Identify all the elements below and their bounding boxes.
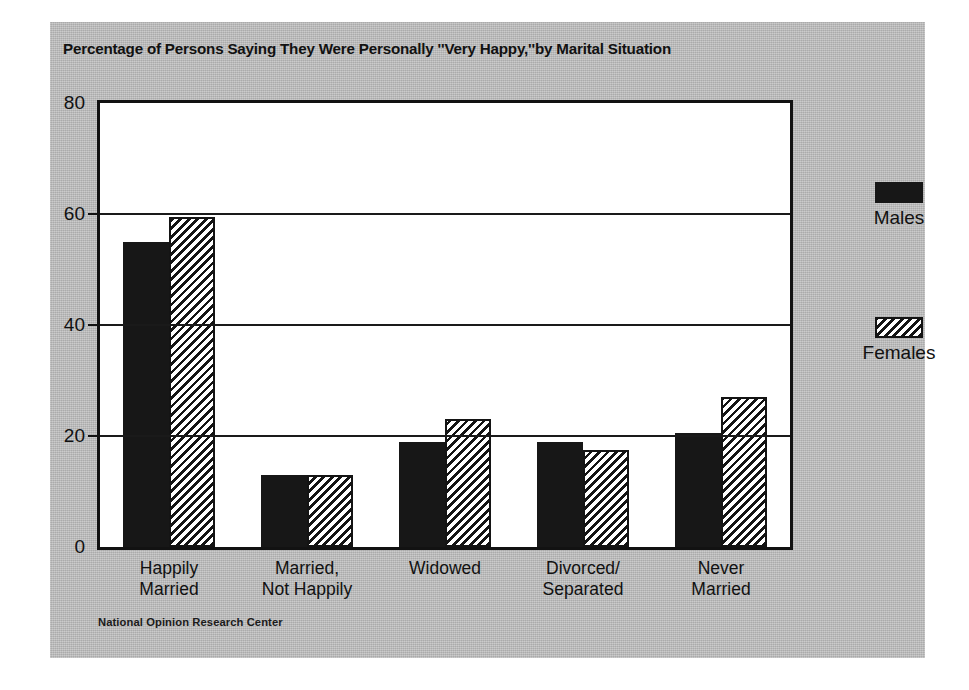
x-category-label-line: Divorced/ <box>543 558 624 579</box>
legend-label-females: Females <box>845 342 953 364</box>
gridline-40 <box>100 324 790 326</box>
x-category-label-line: Widowed <box>409 558 481 579</box>
x-category-label-line: Married, <box>262 558 352 579</box>
bar-females-2 <box>445 419 491 547</box>
x-category-label-4: NeverMarried <box>691 558 750 599</box>
x-category-label-1: Married,Not Happily <box>262 558 352 599</box>
bar-males-4 <box>675 433 721 547</box>
bar-males-2 <box>399 442 445 547</box>
x-category-label-line: Happily <box>139 558 198 579</box>
bar-males-3 <box>537 442 583 547</box>
x-category-label-3: Divorced/Separated <box>543 558 624 599</box>
x-category-label-0: HappilyMarried <box>139 558 198 599</box>
x-category-label-line: Married <box>139 579 198 600</box>
x-category-label-line: Never <box>691 558 750 579</box>
gridline-60 <box>100 213 790 215</box>
y-tick-mark-60 <box>88 213 100 215</box>
y-tick-label-0: 0 <box>74 536 85 558</box>
x-category-label-line: Married <box>691 579 750 600</box>
bar-females-4 <box>721 397 767 547</box>
gridline-20 <box>100 435 790 437</box>
legend-label-males: Males <box>845 207 953 229</box>
y-tick-mark-20 <box>88 435 100 437</box>
bar-females-0 <box>169 217 215 547</box>
chart-page: Percentage of Persons Saying They Were P… <box>0 0 969 690</box>
bar-males-0 <box>123 242 169 547</box>
bar-males-1 <box>261 475 307 547</box>
x-category-label-2: Widowed <box>409 558 481 579</box>
chart-title: Percentage of Persons Saying They Were P… <box>63 40 923 57</box>
y-tick-label-20: 20 <box>64 425 85 447</box>
y-tick-label-60: 60 <box>64 203 85 225</box>
x-category-label-line: Not Happily <box>262 579 352 600</box>
y-tick-label-40: 40 <box>64 314 85 336</box>
solid-black-swatch <box>875 182 923 203</box>
legend-item-males[interactable]: Males <box>845 182 953 229</box>
source-note: National Opinion Research Center <box>98 616 283 628</box>
y-tick-mark-40 <box>88 324 100 326</box>
bar-females-1 <box>307 475 353 547</box>
legend-item-females[interactable]: Females <box>845 317 953 364</box>
chart-panel: Percentage of Persons Saying They Were P… <box>50 22 925 658</box>
plot-area: 020406080 <box>97 100 793 550</box>
x-category-label-line: Separated <box>543 579 624 600</box>
diagonal-hatch-swatch <box>875 317 923 338</box>
bar-females-3 <box>583 450 629 547</box>
y-tick-label-80: 80 <box>64 92 85 114</box>
